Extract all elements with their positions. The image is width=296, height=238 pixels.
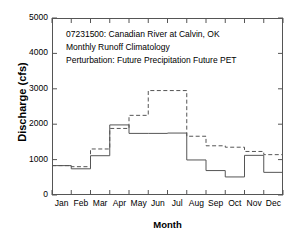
x-tick-label-jul: Jul bbox=[172, 198, 183, 208]
y-tick-label-text: 3000 bbox=[29, 83, 48, 93]
data-series-group bbox=[52, 91, 283, 177]
x-tick-label-jun: Jun bbox=[151, 198, 165, 208]
x-tick-label-nov: Nov bbox=[247, 198, 262, 208]
x-tick-label-mar: Mar bbox=[93, 198, 108, 208]
annotation-line-1: 07231500: Canadian River at Calvin, OK bbox=[66, 28, 237, 41]
x-tick-label-sep: Sep bbox=[208, 198, 223, 208]
y-tick-label-text: 1000 bbox=[29, 154, 48, 164]
x-tick-label-jan: Jan bbox=[55, 198, 69, 208]
annotation-line-3: Perturbation: Future Precipitation Futur… bbox=[66, 54, 237, 67]
y-axis-title: Discharge (cfs) bbox=[16, 22, 28, 182]
x-axis-title: Month bbox=[52, 219, 283, 230]
x-tick-label-may: May bbox=[131, 198, 147, 208]
x-tick-label-oct: Oct bbox=[228, 198, 241, 208]
x-tick-label-aug: Aug bbox=[189, 198, 204, 208]
y-tick-label-text: 4000 bbox=[29, 47, 48, 57]
x-tick-label-feb: Feb bbox=[74, 198, 89, 208]
x-tick-label-apr: Apr bbox=[113, 198, 126, 208]
y-tick-label-text: 5000 bbox=[29, 12, 48, 22]
chart-figure: Discharge (cfs) 010002000300040005000 Ja… bbox=[0, 0, 296, 238]
series-line-0 bbox=[52, 125, 283, 177]
annotation-block: 07231500: Canadian River at Calvin, OK M… bbox=[66, 28, 237, 67]
y-tick-label-text: 2000 bbox=[29, 118, 48, 128]
annotation-line-2: Monthly Runoff Climatology bbox=[66, 41, 237, 54]
x-tick-label-dec: Dec bbox=[266, 198, 281, 208]
y-tick-label-text: 0 bbox=[43, 189, 48, 199]
